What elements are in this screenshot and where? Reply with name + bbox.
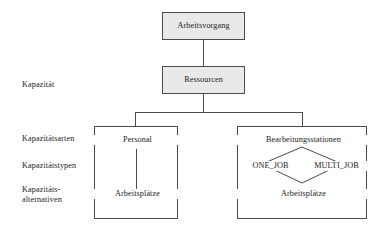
node-stationen-arbeitsplaetze-label: Arbeitsplätze: [237, 189, 370, 199]
row-label-kapazitaetsalternativen-line2: alternativen: [22, 195, 62, 205]
row-label-kapazitaetsalternativen-line1: Kapazitäts-: [22, 185, 60, 195]
node-ressourcen[interactable]: Ressourcen: [162, 66, 245, 94]
diagram-canvas: Kapazität Kapazitätsarten Kapazitätstype…: [0, 0, 388, 226]
connector-split-left: [135, 112, 136, 126]
node-ressourcen-label: Ressourcen: [184, 75, 223, 85]
node-one-job-label: ONE_JOB: [241, 161, 300, 171]
node-arbeitsvorgang[interactable]: Arbeitsvorgang: [162, 12, 245, 40]
node-personal-label: Personal: [94, 135, 181, 145]
connector-arbeitsvorgang-ressourcen: [203, 40, 204, 66]
node-bearbeitungsstationen-label: Bearbeitungsstationen: [237, 135, 370, 145]
connector-split-right: [302, 112, 303, 126]
row-label-kapazitaetsarten: Kapazitätsarten: [22, 134, 74, 144]
connector-personal-arbeitsplaetze: [136, 149, 137, 190]
node-personal-arbeitsplaetze-label: Arbeitsplätze: [94, 189, 181, 199]
connector-split-bar: [135, 112, 303, 113]
connector-ressourcen-down: [203, 94, 204, 112]
row-label-kapazitaetstypen: Kapazitätstypen: [22, 161, 76, 171]
node-arbeitsvorgang-label: Arbeitsvorgang: [177, 21, 229, 31]
node-multi-job-label: MULTI_JOB: [306, 161, 367, 171]
row-label-kapazitaet: Kapazität: [22, 80, 54, 90]
